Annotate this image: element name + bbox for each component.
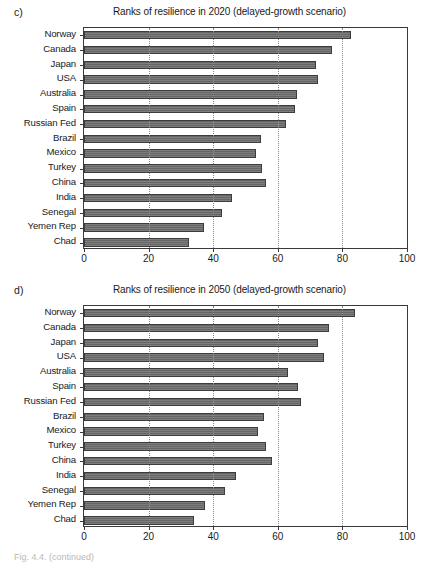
- y-tick-14: [80, 243, 84, 244]
- y-tick-9: [80, 169, 84, 170]
- y-tick-10: [80, 183, 84, 184]
- category-label-spain: Spain: [0, 379, 80, 394]
- category-label-china: China: [0, 453, 80, 468]
- panel-c-title: Ranks of resilience in 2020 (delayed-gro…: [0, 6, 429, 17]
- y-tick-2: [80, 65, 84, 66]
- x-tick-80: [342, 526, 343, 530]
- gridline-40: [213, 306, 214, 526]
- bar-row: [84, 87, 407, 102]
- y-tick-11: [80, 198, 84, 199]
- bar-row: [84, 395, 407, 410]
- category-label-chad: Chad: [0, 512, 80, 527]
- panel-c-plot-area: 020406080100: [83, 27, 408, 249]
- category-label-turkey: Turkey: [0, 160, 80, 175]
- y-tick-7: [80, 139, 84, 140]
- x-tick-100: [407, 526, 408, 530]
- x-tick-20: [149, 526, 150, 530]
- bar-row: [84, 439, 407, 454]
- x-tick-60: [278, 526, 279, 530]
- bar-row: [84, 365, 407, 380]
- gridline-60: [278, 306, 279, 526]
- bar-row: [84, 58, 407, 73]
- bar-japan: [84, 61, 316, 69]
- bar-row: [84, 350, 407, 365]
- gridline-80: [342, 28, 343, 248]
- x-tick-label-80: 80: [337, 531, 348, 542]
- category-label-australia: Australia: [0, 364, 80, 379]
- x-tick-label-40: 40: [208, 531, 219, 542]
- y-tick-5: [80, 109, 84, 110]
- bar-row: [84, 72, 407, 87]
- panel-d-category-labels: NorwayCanadaJapanUSAAustraliaSpainRussia…: [0, 305, 80, 527]
- bar-row: [84, 28, 407, 43]
- x-tick-label-80: 80: [337, 253, 348, 264]
- category-label-australia: Australia: [0, 86, 80, 101]
- category-label-senegal: Senegal: [0, 205, 80, 220]
- x-tick-40: [213, 526, 214, 530]
- category-label-brazil: Brazil: [0, 131, 80, 146]
- category-label-mexico: Mexico: [0, 423, 80, 438]
- bar-yemen-rep: [84, 223, 204, 231]
- y-tick-14: [80, 521, 84, 522]
- bar-japan: [84, 339, 318, 347]
- bar-row: [84, 220, 407, 235]
- category-label-usa: USA: [0, 349, 80, 364]
- category-label-canada: Canada: [0, 320, 80, 335]
- bar-row: [84, 206, 407, 221]
- gridline-60: [278, 28, 279, 248]
- y-tick-6: [80, 124, 84, 125]
- x-tick-label-0: 0: [81, 253, 87, 264]
- y-tick-4: [80, 95, 84, 96]
- panel-d-title: Ranks of resilience in 2050 (delayed-gro…: [0, 284, 429, 295]
- y-tick-11: [80, 476, 84, 477]
- panel-d: d) Ranks of resilience in 2050 (delayed-…: [0, 278, 429, 558]
- bar-russian-fed: [84, 398, 301, 406]
- category-label-japan: Japan: [0, 335, 80, 350]
- y-tick-0: [80, 35, 84, 36]
- y-tick-3: [80, 358, 84, 359]
- y-tick-1: [80, 328, 84, 329]
- bar-spain: [84, 383, 298, 391]
- bar-chad: [84, 238, 189, 246]
- category-label-india: India: [0, 190, 80, 205]
- y-tick-2: [80, 343, 84, 344]
- gridline-40: [213, 28, 214, 248]
- y-tick-13: [80, 228, 84, 229]
- bar-row: [84, 498, 407, 513]
- x-tick-label-100: 100: [399, 531, 416, 542]
- y-tick-8: [80, 154, 84, 155]
- bar-row: [84, 117, 407, 132]
- bar-row: [84, 424, 407, 439]
- bar-senegal: [84, 487, 225, 495]
- x-tick-label-60: 60: [272, 531, 283, 542]
- category-label-china: China: [0, 175, 80, 190]
- bar-russian-fed: [84, 120, 286, 128]
- x-tick-label-40: 40: [208, 253, 219, 264]
- category-label-brazil: Brazil: [0, 409, 80, 424]
- x-tick-label-0: 0: [81, 531, 87, 542]
- panel-d-plot-area: 020406080100: [83, 305, 408, 527]
- x-tick-100: [407, 248, 408, 252]
- gridline-80: [342, 306, 343, 526]
- bar-row: [84, 102, 407, 117]
- bar-chad: [84, 516, 194, 524]
- y-tick-12: [80, 213, 84, 214]
- y-tick-7: [80, 417, 84, 418]
- category-label-spain: Spain: [0, 101, 80, 116]
- category-label-russian-fed: Russian Fed: [0, 394, 80, 409]
- bar-row: [84, 235, 407, 250]
- y-tick-1: [80, 50, 84, 51]
- bar-australia: [84, 368, 288, 376]
- category-label-chad: Chad: [0, 234, 80, 249]
- gridline-20: [149, 306, 150, 526]
- panel-d-bars: [84, 306, 407, 526]
- bar-spain: [84, 105, 295, 113]
- bar-brazil: [84, 135, 261, 143]
- bar-norway: [84, 309, 355, 317]
- bar-yemen-rep: [84, 501, 205, 509]
- x-tick-60: [278, 248, 279, 252]
- bar-row: [84, 410, 407, 425]
- category-label-yemen-rep: Yemen Rep: [0, 497, 80, 512]
- bar-australia: [84, 90, 297, 98]
- x-tick-0: [84, 526, 85, 530]
